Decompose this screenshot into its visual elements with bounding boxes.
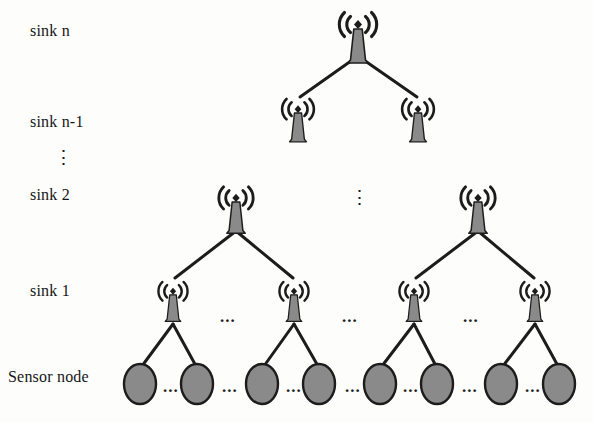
sensor-node-icon[interactable] bbox=[303, 364, 335, 404]
horizontal-ellipsis: ... bbox=[286, 378, 302, 395]
sink-tower-icon[interactable] bbox=[520, 282, 549, 321]
sink-tower-icon[interactable] bbox=[339, 13, 376, 64]
edge-edge-sink2r-to-sink1d bbox=[478, 231, 534, 278]
sensor-node-icon[interactable] bbox=[124, 364, 156, 404]
horizontal-ellipsis: ... bbox=[222, 378, 238, 395]
edge-edge-sink1a-to-sensor2 bbox=[173, 324, 196, 366]
edge-edge-sink1d-to-sensor8 bbox=[535, 324, 558, 366]
horizontal-ellipsis: ... bbox=[463, 308, 479, 325]
edge-edge-sink1b-to-sensor4 bbox=[294, 324, 318, 366]
row-label-sink-1: sink 1 bbox=[30, 282, 70, 300]
horizontal-ellipsis: ... bbox=[342, 308, 358, 325]
edge-edge-sink1c-to-sensor6 bbox=[414, 324, 436, 366]
sink-tower-icon[interactable] bbox=[461, 187, 495, 233]
horizontal-ellipsis: ... bbox=[220, 308, 236, 325]
sensor-node-icon[interactable] bbox=[543, 364, 575, 404]
sink-tower-icon[interactable] bbox=[399, 282, 428, 321]
edge-edge-sink2r-to-sink1c bbox=[416, 231, 478, 278]
horizontal-ellipsis: ... bbox=[525, 378, 541, 395]
edge-edge-sink1a-to-sensor1 bbox=[142, 324, 173, 366]
edge-edge-sink2l-to-sink1a bbox=[175, 231, 236, 278]
horizontal-ellipsis: ... bbox=[345, 378, 361, 395]
edge-edge-sink2l-to-sink1b bbox=[236, 231, 293, 278]
sink-tower-icon[interactable] bbox=[402, 99, 434, 142]
row-label-sensor-node: Sensor node bbox=[8, 368, 89, 386]
network-diagram bbox=[0, 0, 593, 423]
sink-tower-icon[interactable] bbox=[279, 282, 308, 321]
towers-layer bbox=[158, 13, 549, 322]
edge-edge-sink1c-to-sensor5 bbox=[382, 324, 414, 366]
sink-tower-icon[interactable] bbox=[158, 282, 187, 321]
level-omission-ellipsis-middle: ⋮ bbox=[350, 188, 369, 207]
diagram-canvas: sink nsink n-1sink 2sink 1Sensor node ⋮ … bbox=[0, 0, 593, 423]
sensor-node-icon[interactable] bbox=[421, 364, 453, 404]
horizontal-ellipsis: ... bbox=[163, 378, 179, 395]
level-omission-ellipsis-label: ⋮ bbox=[54, 148, 73, 167]
sensor-node-icon[interactable] bbox=[485, 364, 517, 404]
horizontal-ellipsis: ... bbox=[403, 378, 419, 395]
row-label-sink-n-1: sink n-1 bbox=[30, 113, 84, 131]
sensor-node-icon[interactable] bbox=[246, 364, 278, 404]
sink-tower-icon[interactable] bbox=[219, 187, 253, 233]
horizontal-ellipsis: ... bbox=[462, 378, 478, 395]
edge-edge-sink1d-to-sensor7 bbox=[503, 324, 535, 366]
row-label-sink-2: sink 2 bbox=[30, 186, 70, 204]
edge-edge-sink1b-to-sensor3 bbox=[264, 324, 294, 366]
row-label-sink-n: sink n bbox=[30, 22, 70, 40]
sensor-node-icon[interactable] bbox=[181, 364, 213, 404]
sensor-node-icon[interactable] bbox=[364, 364, 396, 404]
sink-tower-icon[interactable] bbox=[282, 99, 314, 142]
